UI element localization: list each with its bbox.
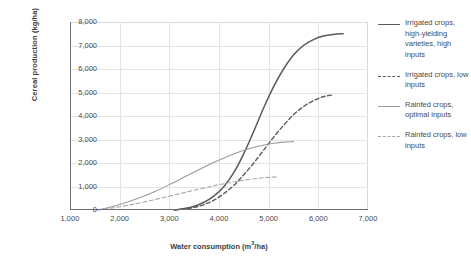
legend-item[interactable]: Rainfed crops, low inputs [378,130,470,151]
legend-item-label: Irrigated crops, high-yielding varieties… [405,18,470,61]
legend-line-swatch-icon [378,72,400,81]
series-line-3 [97,142,293,210]
y-axis-tick-label: 3,000 [51,136,97,144]
legend-line-swatch-icon [378,20,400,29]
legend-item[interactable]: Rainfed crops, optimal inputs [378,100,470,121]
plot-area [70,22,368,210]
x-axis-line [70,209,368,210]
legend-item-label: Rainfed crops, low inputs [405,130,470,151]
legend-item-label: Irrigated crops, low inputs [405,70,470,91]
series-line-2 [174,95,333,210]
y-axis-tick-label: 1,000 [51,183,97,191]
legend-item-label: Rainfed crops, optimal inputs [405,100,470,121]
legend-line-swatch-icon [378,132,400,141]
y-axis-title: Cereal production (kg/ha) [30,0,39,135]
series-line-4 [97,177,278,210]
y-axis-tick-label: 8,000 [51,18,97,26]
series-lines [70,22,368,210]
y-axis-tick-label: 6,000 [51,65,97,73]
y-axis-tick-label: 5,000 [51,89,97,97]
y-axis-tick-label: 2,000 [51,159,97,167]
series-line-1 [174,34,343,210]
legend-line-swatch-icon [378,102,400,111]
legend-item[interactable]: Irrigated crops, low inputs [378,70,470,91]
x-axis-tick-label: 7,000 [338,215,398,223]
chart-container: Cereal production (kg/ha) 01,0002,0003,0… [0,0,471,263]
legend-item[interactable]: Irrigated crops, high-yielding varieties… [378,18,470,61]
chart-legend: Irrigated crops, high-yielding varieties… [378,18,470,160]
y-axis-tick-label: 0 [51,206,97,214]
y-axis-tick-label: 7,000 [51,42,97,50]
y-axis-tick-label: 4,000 [51,112,97,120]
x-axis-title: Water consumption (m3/ha) [70,240,368,251]
